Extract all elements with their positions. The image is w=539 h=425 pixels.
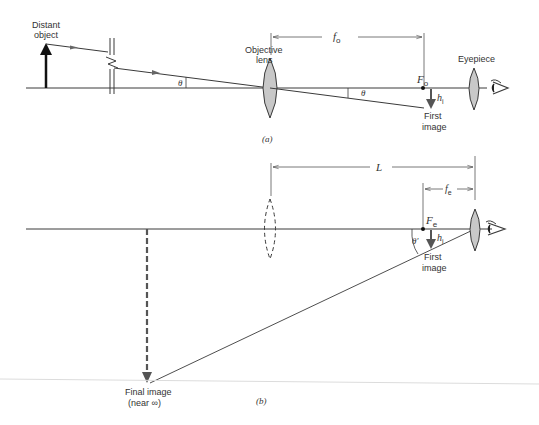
eyepiece-lens-b (470, 209, 480, 251)
panel-b-caption: (b) (256, 396, 267, 406)
image-height-hi-label: hi (437, 92, 444, 105)
refracted-ray-a (270, 88, 424, 108)
first-image-label-a-2: image (422, 122, 447, 132)
distant-object-label-2: object (34, 30, 59, 40)
angle-theta-prime: θ′ (412, 236, 419, 246)
incoming-ray-segment-1 (46, 44, 108, 52)
ray-direction-arrow-2 (152, 70, 160, 75)
final-image-arrow (142, 229, 152, 383)
focal-point-fe (421, 227, 425, 231)
objective-lens-label-2: lens (256, 55, 273, 65)
focal-point-fo-label: Fo (416, 73, 429, 88)
final-image-label: Final image (125, 387, 172, 397)
panel-a-caption: (a) (262, 134, 273, 144)
first-image-label-a: First (424, 111, 442, 121)
first-image-arrow-b (426, 230, 436, 249)
page-rule (0, 379, 539, 384)
distance-break-icon (106, 38, 118, 94)
image-height-hi-label-b: hi (437, 232, 444, 245)
eye-icon-b (486, 221, 505, 235)
incoming-ray-segment-2 (114, 68, 270, 88)
first-image-label-b-2: image (422, 263, 447, 273)
focal-point-fe-label: Fe (425, 214, 438, 229)
distant-object-arrow (40, 43, 52, 88)
angle-theta-left: θ (178, 78, 183, 88)
virtual-ray-b (150, 229, 475, 383)
angle-theta-right: θ (361, 88, 366, 98)
ray-direction-arrow (70, 46, 78, 50)
length-L-label: L (375, 161, 382, 173)
panel-a: Distant object θ Objective lens fo θ (26, 20, 508, 144)
eye-icon (491, 80, 508, 94)
first-image-arrow-a (426, 89, 436, 109)
focal-length-fo-label: fo (333, 30, 341, 45)
first-image-label-b: First (424, 252, 442, 262)
eyepiece-lens-a (469, 68, 479, 110)
panel-b: L fe Fe hi First image θ′ (26, 156, 505, 408)
final-image-label-2: (near ∞) (128, 398, 161, 408)
telescope-diagram: Distant object θ Objective lens fo θ (0, 0, 539, 425)
eyepiece-label: Eyepiece (458, 54, 495, 64)
objective-lens-label: Objective (245, 45, 283, 55)
distant-object-label: Distant (32, 20, 61, 30)
focal-length-fe-label: fe (445, 183, 452, 196)
